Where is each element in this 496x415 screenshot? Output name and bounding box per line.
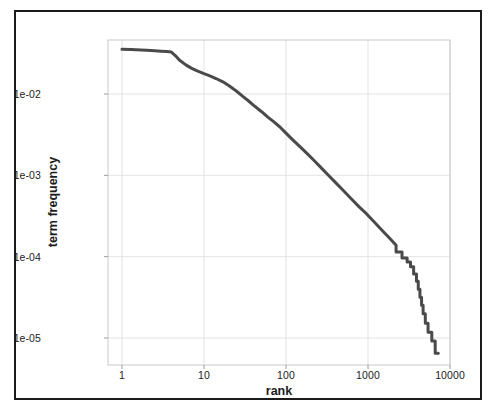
plot-panel-background: [108, 40, 450, 365]
x-tick-label-10: 10: [198, 369, 210, 381]
x-tick-label-1: 1: [119, 369, 125, 381]
y-tick-label-1e-03: 1e-03: [14, 169, 41, 181]
x-tick-label-10000: 10000: [435, 369, 465, 381]
y-axis-title: term frequency: [46, 157, 60, 247]
x-tick-label-100: 100: [277, 369, 295, 381]
y-tick-label-1e-05: 1e-05: [14, 332, 41, 344]
x-axis-title: rank: [266, 384, 292, 398]
chart-plot-area: [0, 0, 496, 415]
x-tick-label-1000: 1000: [356, 369, 380, 381]
y-tick-marks: [104, 94, 108, 338]
y-tick-label-1e-02: 1e-02: [14, 88, 41, 100]
zipf-rank-frequency-chart: 1 10 100 1000 10000 1e-02 1e-03 1e-04 1e…: [0, 0, 496, 415]
y-tick-label-1e-04: 1e-04: [14, 251, 41, 263]
